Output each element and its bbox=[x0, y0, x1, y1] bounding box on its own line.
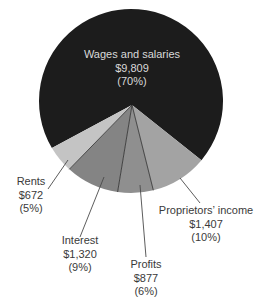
label-proprietors-income: Proprietors’ income $1,407 (10%) bbox=[159, 204, 253, 245]
slice-value: $9,809 bbox=[84, 62, 180, 76]
slice-percent: (9%) bbox=[62, 261, 99, 275]
slice-name: Rents bbox=[17, 175, 46, 189]
slice-name: Proprietors’ income bbox=[159, 204, 253, 218]
label-profits: Profits $877 (6%) bbox=[130, 258, 161, 299]
label-interest: Interest $1,320 (9%) bbox=[62, 234, 99, 275]
leader-line-rents bbox=[48, 160, 68, 189]
slice-value: $1,320 bbox=[62, 248, 99, 262]
slice-name: Interest bbox=[62, 234, 99, 248]
slice-value: $877 bbox=[130, 272, 161, 286]
leader-line-interest bbox=[80, 177, 104, 237]
slice-name: Wages and salaries bbox=[84, 48, 180, 62]
slice-percent: (70%) bbox=[84, 75, 180, 89]
slice-percent: (10%) bbox=[159, 231, 253, 245]
leader-line-profits bbox=[140, 185, 146, 257]
slice-value: $1,407 bbox=[159, 218, 253, 232]
slice-value: $672 bbox=[17, 189, 46, 203]
label-rents: Rents $672 (5%) bbox=[17, 175, 46, 216]
slice-percent: (6%) bbox=[130, 285, 161, 299]
slice-name: Profits bbox=[130, 258, 161, 272]
label-wages-and-salaries: Wages and salaries $9,809 (70%) bbox=[84, 48, 180, 89]
leader-line-proprietors bbox=[180, 178, 200, 203]
slice-percent: (5%) bbox=[17, 202, 46, 216]
pie-slices bbox=[39, 9, 223, 193]
